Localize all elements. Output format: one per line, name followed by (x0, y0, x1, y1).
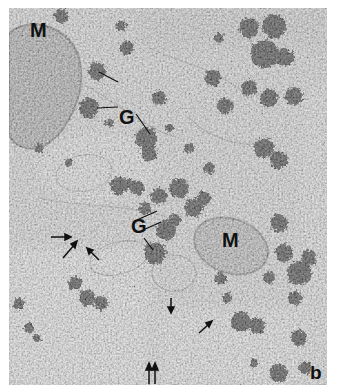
micrograph-texture (9, 8, 327, 385)
label-golgi-lower: G (131, 216, 147, 236)
label-mitochondrion-center-right: M (222, 230, 239, 250)
electron-micrograph: M G G M b (9, 8, 327, 385)
panel-label: b (310, 363, 322, 382)
label-mitochondrion-top-left: M (30, 20, 47, 40)
label-golgi-upper: G (119, 107, 135, 127)
